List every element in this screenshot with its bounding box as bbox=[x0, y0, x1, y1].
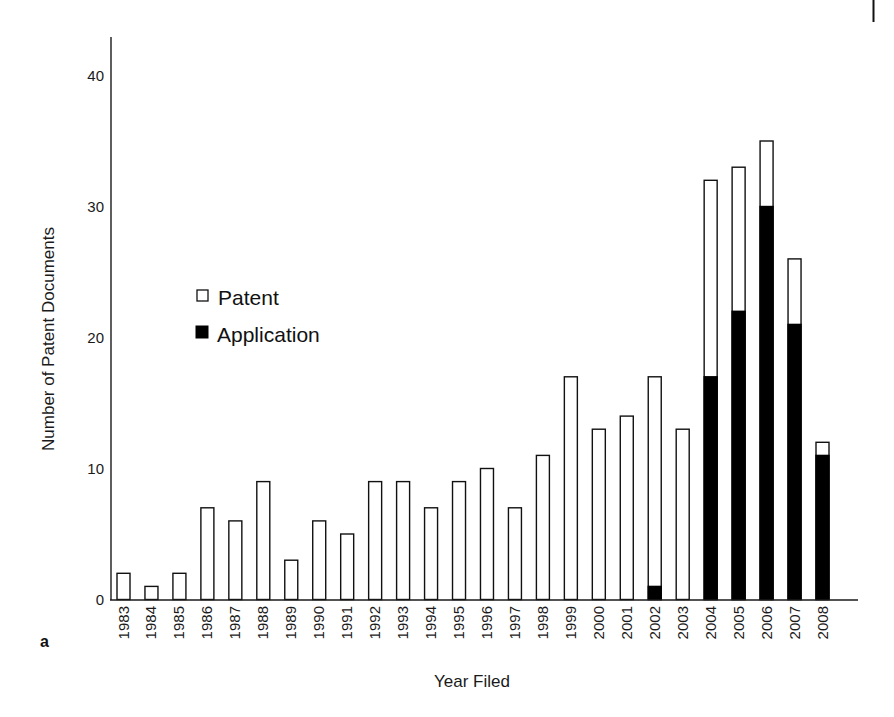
x-tick-label: 1992 bbox=[366, 606, 383, 639]
bar-segment-patent bbox=[313, 521, 326, 600]
x-tick-label: 1987 bbox=[226, 606, 243, 639]
bar-1991 bbox=[341, 534, 354, 600]
x-tick-label: 1988 bbox=[254, 606, 271, 639]
x-tick-label: 2008 bbox=[814, 606, 831, 639]
y-tick-label: 20 bbox=[87, 329, 104, 346]
bar-segment-application bbox=[648, 586, 661, 599]
legend-swatch-patent bbox=[197, 290, 208, 301]
bar-1984 bbox=[145, 586, 158, 599]
legend-item-application: Application bbox=[196, 323, 320, 346]
bar-segment-patent bbox=[285, 560, 298, 599]
bar-2004 bbox=[704, 180, 717, 599]
x-tick-label: 1991 bbox=[338, 606, 355, 639]
bar-segment-application bbox=[760, 207, 773, 600]
bar-segment-application bbox=[732, 311, 745, 599]
x-tick-label: 1999 bbox=[562, 606, 579, 639]
bar-1992 bbox=[369, 482, 382, 600]
x-tick-label: 1989 bbox=[282, 606, 299, 639]
y-tick-label: 10 bbox=[87, 460, 104, 477]
bar-chart: Number of Patent Documents Year Filed a … bbox=[0, 0, 894, 717]
x-tick-label: 1996 bbox=[478, 606, 495, 639]
x-tick-label: 1984 bbox=[142, 606, 159, 639]
bar-segment-patent bbox=[480, 469, 493, 600]
bar-2006 bbox=[760, 141, 773, 600]
bar-segment-patent bbox=[369, 482, 382, 600]
x-tick-label: 1995 bbox=[450, 606, 467, 639]
x-axis-label: Year Filed bbox=[434, 672, 510, 691]
bar-segment-patent bbox=[564, 377, 577, 600]
y-tick-label: 30 bbox=[87, 198, 104, 215]
bar-2005 bbox=[732, 167, 745, 599]
x-tick-label: 2002 bbox=[646, 606, 663, 639]
legend: Patent Application bbox=[196, 286, 320, 346]
bar-segment-patent bbox=[117, 573, 130, 599]
bar-segment-patent bbox=[508, 508, 521, 600]
x-tick-label: 1998 bbox=[534, 606, 551, 639]
x-tick-label: 1990 bbox=[310, 606, 327, 639]
bar-1985 bbox=[173, 573, 186, 599]
x-axis-ticks: 1983198419851986198719881989199019911992… bbox=[115, 606, 831, 639]
bar-segment-patent bbox=[397, 482, 410, 600]
legend-label-patent: Patent bbox=[218, 286, 279, 309]
bar-segment-patent bbox=[145, 586, 158, 599]
x-tick-label: 1986 bbox=[198, 606, 215, 639]
x-tick-label: 1997 bbox=[506, 606, 523, 639]
x-tick-label: 1985 bbox=[170, 606, 187, 639]
x-tick-label: 1994 bbox=[422, 606, 439, 639]
x-tick-label: 1983 bbox=[115, 606, 132, 639]
bar-2000 bbox=[592, 429, 605, 599]
bar-segment-application bbox=[704, 377, 717, 600]
bar-segment-patent bbox=[620, 416, 633, 599]
bar-1998 bbox=[536, 455, 549, 599]
bar-segment-patent bbox=[592, 429, 605, 599]
x-tick-label: 2001 bbox=[618, 606, 635, 639]
bars bbox=[117, 141, 829, 600]
bar-segment-patent bbox=[676, 429, 689, 599]
x-tick-label: 2000 bbox=[590, 606, 607, 639]
bar-segment-patent bbox=[201, 508, 214, 600]
bar-2003 bbox=[676, 429, 689, 599]
bar-segment-application bbox=[816, 455, 829, 599]
bar-1989 bbox=[285, 560, 298, 599]
bar-segment-patent bbox=[341, 534, 354, 600]
bar-segment-patent bbox=[229, 521, 242, 600]
bar-1996 bbox=[480, 469, 493, 600]
y-tick-label: 40 bbox=[87, 67, 104, 84]
bar-segment-patent bbox=[536, 455, 549, 599]
bar-1999 bbox=[564, 377, 577, 600]
bar-1997 bbox=[508, 508, 521, 600]
y-tick-label: 0 bbox=[96, 591, 104, 608]
bar-segment-application bbox=[788, 324, 801, 599]
bar-segment-patent bbox=[425, 508, 438, 600]
x-tick-label: 2005 bbox=[730, 606, 747, 639]
bar-1986 bbox=[201, 508, 214, 600]
bar-segment-patent bbox=[173, 573, 186, 599]
bar-1993 bbox=[397, 482, 410, 600]
x-tick-label: 2004 bbox=[702, 606, 719, 639]
bar-segment-patent bbox=[648, 377, 661, 600]
bar-1983 bbox=[117, 573, 130, 599]
y-axis-ticks: 010203040 bbox=[87, 67, 104, 608]
x-tick-label: 2007 bbox=[786, 606, 803, 639]
bar-1990 bbox=[313, 521, 326, 600]
bar-1988 bbox=[257, 482, 270, 600]
bar-1995 bbox=[453, 482, 466, 600]
x-tick-label: 2003 bbox=[674, 606, 691, 639]
bar-segment-patent bbox=[257, 482, 270, 600]
bar-2001 bbox=[620, 416, 633, 599]
legend-label-application: Application bbox=[217, 323, 320, 346]
x-tick-label: 2006 bbox=[758, 606, 775, 639]
x-tick-label: 1993 bbox=[394, 606, 411, 639]
bar-1987 bbox=[229, 521, 242, 600]
y-axis-label: Number of Patent Documents bbox=[39, 227, 58, 451]
bar-2002 bbox=[648, 377, 661, 600]
legend-item-patent: Patent bbox=[197, 286, 279, 309]
bar-1994 bbox=[425, 508, 438, 600]
bar-segment-patent bbox=[453, 482, 466, 600]
legend-swatch-application bbox=[196, 326, 208, 338]
bar-2007 bbox=[788, 259, 801, 600]
panel-label: a bbox=[40, 633, 49, 650]
bar-2008 bbox=[816, 442, 829, 599]
